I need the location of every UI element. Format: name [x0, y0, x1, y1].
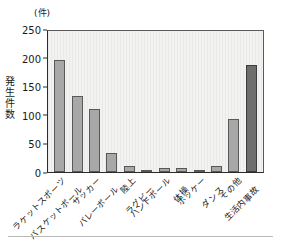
x-axis-labels: ラケットスポーツバスケットボールサッカーバレーボール陸上ラグビーハンドボール体操…: [47, 174, 264, 244]
bar[interactable]: [72, 96, 83, 172]
bar[interactable]: [211, 166, 222, 172]
y-axis-tick: 150: [17, 82, 47, 93]
bar-slot: [225, 31, 242, 172]
bar-slot: [243, 31, 260, 172]
y-axis-tick: 50: [17, 139, 47, 150]
bar-slot: [68, 31, 85, 172]
bar-series: [48, 31, 263, 172]
bar-slot: [190, 31, 207, 172]
y-axis-tick: 100: [17, 110, 47, 121]
bar-slot: [121, 31, 138, 172]
bar-slot: [173, 31, 190, 172]
y-axis-tick-label: 200: [17, 53, 41, 64]
bottom-divider: [8, 236, 273, 237]
y-axis-tick-label: 100: [17, 110, 41, 121]
y-axis-tick: 0: [17, 168, 47, 179]
bar[interactable]: [228, 119, 239, 172]
y-axis-tick: 250: [17, 25, 47, 36]
y-axis-title-char: 数: [4, 109, 16, 120]
bar[interactable]: [194, 170, 205, 172]
plot-area: [47, 30, 264, 173]
y-axis-tick: 200: [17, 53, 47, 64]
bar-slot: [103, 31, 120, 172]
bar-slot: [51, 31, 68, 172]
y-axis-title-char: 件: [4, 98, 16, 109]
bar-slot: [208, 31, 225, 172]
y-axis-title: 発生件数: [4, 76, 16, 120]
y-axis-unit-caption: (件): [34, 6, 50, 19]
y-axis-tick-label: 150: [17, 82, 41, 93]
y-axis-tick-label: 0: [17, 168, 41, 179]
bar[interactable]: [141, 170, 152, 172]
bar-slot: [156, 31, 173, 172]
bar-chart-figure: (件) 発生件数 250200150100500 ラケットスポーツバスケットボー…: [0, 0, 281, 245]
bar[interactable]: [176, 168, 187, 172]
bar[interactable]: [159, 168, 170, 172]
y-axis-title-char: 発: [4, 76, 16, 87]
bar[interactable]: [89, 109, 100, 172]
y-axis-tick-label: 250: [17, 25, 41, 36]
bar-slot: [86, 31, 103, 172]
bar[interactable]: [124, 166, 135, 172]
bar[interactable]: [246, 65, 257, 172]
y-axis-tick-label: 50: [17, 139, 41, 150]
bar[interactable]: [54, 60, 65, 172]
bar-slot: [138, 31, 155, 172]
y-axis-title-char: 生: [4, 87, 16, 98]
bar[interactable]: [106, 153, 117, 172]
